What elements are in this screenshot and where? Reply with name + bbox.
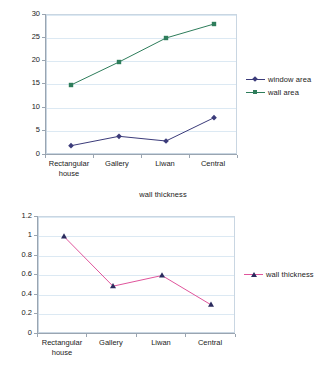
chart1-series-layer bbox=[47, 15, 238, 155]
chart1-y-tick-label: 25 bbox=[14, 33, 40, 41]
chart1-legend: window area wall area bbox=[246, 73, 311, 99]
chart2-x-tick bbox=[235, 334, 236, 337]
series-marker-window-area bbox=[163, 138, 169, 144]
chart1-legend-item-window-area[interactable]: window area bbox=[246, 73, 311, 86]
chart1-y-tick bbox=[42, 37, 45, 38]
series-marker-wall-thickness bbox=[159, 272, 165, 277]
chart1-plot-area bbox=[46, 14, 237, 154]
chart1-x-tick bbox=[45, 155, 46, 158]
diamond-marker-icon bbox=[246, 75, 265, 84]
chart1-y-tick-label: 20 bbox=[14, 56, 40, 64]
chart1-x-tick bbox=[93, 155, 94, 158]
chart2-plot-area bbox=[38, 216, 235, 333]
chart1-y-tick-label: 15 bbox=[14, 79, 40, 87]
chart2-y-tick bbox=[34, 235, 37, 236]
chart2-plot-wrap: 1.2 1 0.8 0.6 0.4 0.2 0 Rectangular hous… bbox=[0, 185, 326, 370]
chart1-plot-wrap: 30 25 20 15 10 5 0 Rectangular house Gal… bbox=[0, 0, 326, 185]
series-marker-wall-area bbox=[69, 83, 73, 87]
chart1-y-tick bbox=[42, 130, 45, 131]
chart2-x-tick bbox=[185, 334, 186, 337]
chart2-y-axis bbox=[37, 216, 38, 334]
chart2-y-tick bbox=[34, 216, 37, 217]
chart2-x-tick-label-central: Central bbox=[180, 338, 240, 348]
chart1-legend-label: window area bbox=[268, 75, 311, 84]
chart1-y-tick bbox=[42, 107, 45, 108]
chart2-y-tick-label: 0.6 bbox=[4, 270, 32, 278]
square-marker-icon bbox=[246, 88, 265, 97]
chart1-y-axis bbox=[45, 14, 46, 155]
chart1-y-tick bbox=[42, 83, 45, 84]
chart2-legend-label: wall thickness bbox=[266, 270, 314, 279]
triangle-marker-icon bbox=[244, 270, 263, 279]
series-marker-wall-area bbox=[117, 60, 121, 64]
chart1-x-tick bbox=[189, 155, 190, 158]
chart2-legend: wall thickness bbox=[244, 268, 314, 281]
chart2-y-tick bbox=[34, 313, 37, 314]
chart1-y-tick bbox=[42, 60, 45, 61]
chart1-x-tick-label-central: Central bbox=[183, 159, 243, 169]
chart1-y-tick-label: 0 bbox=[14, 150, 40, 158]
chart1-legend-label: wall area bbox=[268, 88, 299, 97]
chart1-y-tick bbox=[42, 14, 45, 15]
chart1-y-tick-label: 10 bbox=[14, 103, 40, 111]
chart1-y-tick-label: 30 bbox=[14, 10, 40, 18]
series-marker-window-area bbox=[68, 143, 74, 149]
series-marker-wall-area bbox=[212, 22, 216, 26]
series-marker-window-area bbox=[211, 115, 217, 121]
chart2-y-tick bbox=[34, 255, 37, 256]
series-marker-window-area bbox=[116, 133, 122, 139]
chart2-y-tick-label: 0.2 bbox=[4, 309, 32, 317]
chart1-x-tick bbox=[237, 155, 238, 158]
chart2-x-tick bbox=[37, 334, 38, 337]
chart2-x-tick bbox=[86, 334, 87, 337]
chart2-y-tick-label: 1 bbox=[4, 231, 32, 239]
chart1-x-label-line2: house bbox=[37, 169, 101, 179]
series-line-wall-thickness bbox=[64, 237, 211, 305]
chart1-x-tick bbox=[141, 155, 142, 158]
chart2-y-tick-label: 0 bbox=[4, 329, 32, 337]
chart2-y-tick-label: 1.2 bbox=[4, 212, 32, 220]
chart2-y-tick-label: 0.4 bbox=[4, 290, 32, 298]
chart2-y-tick-label: 0.8 bbox=[4, 251, 32, 259]
series-marker-wall-area bbox=[164, 36, 168, 40]
series-marker-wall-thickness bbox=[208, 302, 214, 307]
chart1-legend-item-wall-area[interactable]: wall area bbox=[246, 86, 311, 99]
series-line-wall-area bbox=[71, 24, 214, 85]
chart-wall-thickness: wall thickness bbox=[0, 185, 326, 370]
chart2-x-label-line2: house bbox=[30, 348, 94, 358]
chart2-x-tick bbox=[136, 334, 137, 337]
chart2-y-tick bbox=[34, 274, 37, 275]
chart2-y-tick bbox=[34, 294, 37, 295]
chart2-series-layer bbox=[39, 217, 236, 334]
chart2-legend-item-wall-thickness[interactable]: wall thickness bbox=[244, 268, 314, 281]
chart-window-wall-area: 30 25 20 15 10 5 0 Rectangular house Gal… bbox=[0, 0, 326, 185]
series-line-window-area bbox=[71, 118, 214, 146]
chart1-y-tick-label: 5 bbox=[14, 126, 40, 134]
series-marker-wall-thickness bbox=[61, 233, 67, 238]
